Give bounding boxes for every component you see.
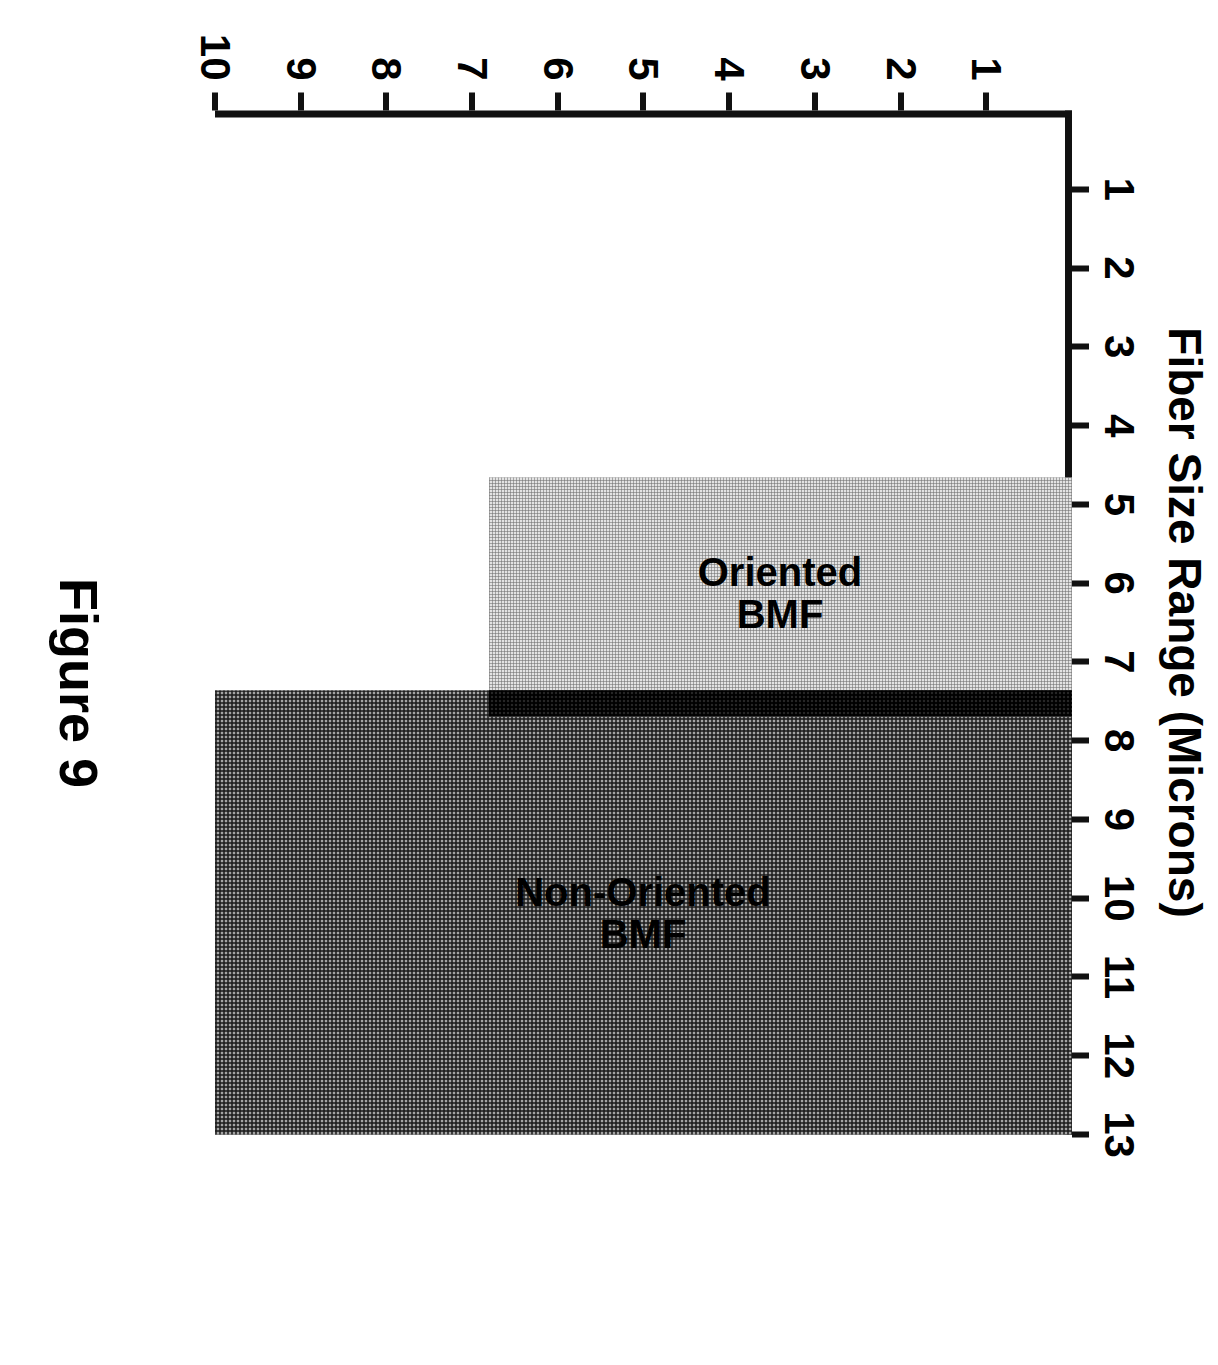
bar-oriented-bmf: Oriented BMF xyxy=(489,477,1072,707)
value-tick-label: 9 xyxy=(280,57,322,80)
size-tick-label: 5 xyxy=(1098,492,1140,515)
value-tick-label: 3 xyxy=(794,57,836,80)
value-tick xyxy=(898,92,904,110)
size-tick-label: 2 xyxy=(1098,256,1140,279)
size-tick-label: 8 xyxy=(1098,728,1140,751)
size-tick-label: 3 xyxy=(1098,335,1140,358)
value-tick-label: 5 xyxy=(623,57,665,80)
size-tick xyxy=(1072,737,1089,743)
size-tick-label: 9 xyxy=(1098,807,1140,830)
value-tick-label: 4 xyxy=(708,57,750,80)
size-tick xyxy=(1072,265,1089,271)
size-tick xyxy=(1072,816,1089,822)
size-tick xyxy=(1072,1052,1089,1058)
size-tick xyxy=(1072,658,1089,664)
size-tick-label: 6 xyxy=(1098,571,1140,594)
value-axis-line xyxy=(215,110,1072,117)
value-tick xyxy=(812,92,818,110)
value-tick-label: 10 xyxy=(194,33,236,80)
size-tick xyxy=(1072,186,1089,192)
value-tick xyxy=(469,92,475,110)
value-tick xyxy=(212,92,218,110)
plot-area: Oriented BMF Non-Oriented BMF 1234567891… xyxy=(215,110,1072,1134)
size-tick-label: 11 xyxy=(1098,954,1140,998)
size-tick xyxy=(1072,1131,1089,1137)
figure-caption: Figure 9 xyxy=(48,577,110,787)
value-tick xyxy=(555,92,561,110)
size-tick xyxy=(1072,501,1089,507)
value-tick-label: 6 xyxy=(537,57,579,80)
size-tick-label: 7 xyxy=(1098,650,1140,673)
bar-label-oriented-bmf: Oriented BMF xyxy=(698,550,862,634)
size-tick-label: 1 xyxy=(1098,177,1140,200)
value-tick-label: 8 xyxy=(365,57,407,80)
size-tick-label: 12 xyxy=(1098,1032,1140,1079)
size-tick-label: 10 xyxy=(1098,874,1140,921)
size-tick-label: 4 xyxy=(1098,413,1140,436)
bar-overlap-band xyxy=(489,690,1072,716)
value-tick xyxy=(726,92,732,110)
axis-title: Fiber Size Range (Microns) xyxy=(1158,327,1212,917)
size-tick xyxy=(1072,973,1089,979)
size-tick xyxy=(1072,343,1089,349)
size-tick xyxy=(1072,580,1089,586)
value-tick-label: 2 xyxy=(880,57,922,80)
value-tick-label: 1 xyxy=(965,57,1007,80)
value-tick xyxy=(383,92,389,110)
value-tick-label: 7 xyxy=(451,57,493,80)
value-tick xyxy=(641,92,647,110)
size-tick-label: 13 xyxy=(1098,1111,1140,1158)
figure-canvas: Oriented BMF Non-Oriented BMF 1234567891… xyxy=(0,0,1218,1365)
bar-non-oriented-bmf: Non-Oriented BMF xyxy=(215,690,1072,1134)
value-tick xyxy=(983,92,989,110)
size-tick xyxy=(1072,422,1089,428)
bar-label-non-oriented-bmf: Non-Oriented BMF xyxy=(516,870,772,954)
size-tick xyxy=(1072,895,1089,901)
value-tick xyxy=(298,92,304,110)
